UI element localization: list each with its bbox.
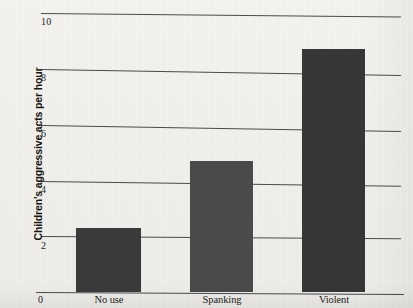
bar-violent (302, 49, 365, 292)
xtick-label-violent: Violent (293, 294, 375, 305)
xtick-label-no-use: No use (68, 294, 150, 305)
xtick-label-spanking: Spanking (181, 294, 263, 305)
ytick-label-0: 0 (38, 294, 43, 305)
bar-chart-figure: 10 8 6 4 2 0 Children's aggressive acts … (0, 0, 413, 308)
bar-spanking (190, 161, 253, 292)
plot-area: 10 8 6 4 2 0 Children's aggressive acts … (0, 0, 413, 308)
gridline-10 (41, 13, 401, 17)
bar-no-use (76, 228, 141, 292)
y-axis-title: Children's aggressive acts per hour (32, 34, 44, 274)
ytick-label-10: 10 (41, 16, 51, 27)
